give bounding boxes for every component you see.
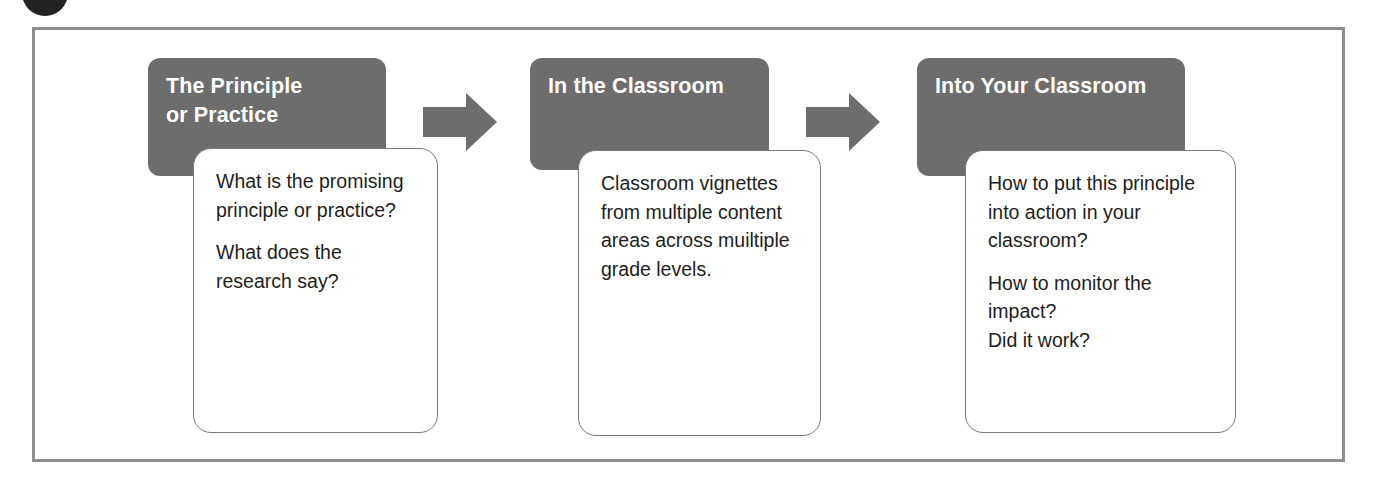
step-card-in-the-classroom: Classroom vignettes from multiple conten… xyxy=(578,150,821,436)
process-flow: The Principle or Practice What is the pr… xyxy=(0,0,1374,489)
step-header-line: Into Your Classroom xyxy=(935,72,1169,101)
right-arrow-icon xyxy=(423,93,497,151)
step-header-line: The Principle xyxy=(166,72,370,101)
diagram-canvas: The Principle or Practice What is the pr… xyxy=(0,0,1374,489)
card-paragraph: What is the promising principle or pract… xyxy=(216,167,419,224)
step-card-into-your-classroom: How to put this principle into action in… xyxy=(965,150,1236,433)
card-paragraph: What does the research say? xyxy=(216,238,419,295)
card-paragraph: How to monitor the impact? Did it work? xyxy=(988,269,1217,355)
step-header-line: or Practice xyxy=(166,101,370,130)
step-card-principle-or-practice: What is the promising principle or pract… xyxy=(193,148,438,433)
card-paragraph: How to put this principle into action in… xyxy=(988,169,1217,255)
card-paragraph: Classroom vignettes from multiple conten… xyxy=(601,169,802,283)
right-arrow-icon xyxy=(806,93,880,151)
step-header-line: In the Classroom xyxy=(548,72,753,101)
